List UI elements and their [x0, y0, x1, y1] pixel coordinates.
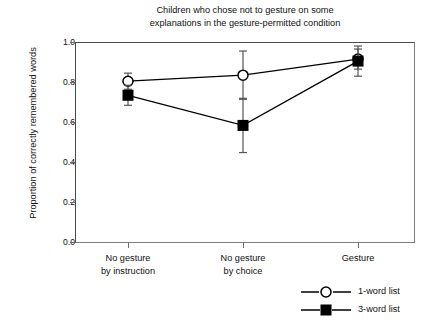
x-tick-mark — [243, 243, 244, 248]
legend-marker-open-circle-icon — [300, 283, 352, 301]
x-tick-label-0-line-2: by instruction — [68, 265, 188, 278]
plot-area — [75, 42, 415, 243]
legend-label: 3-word list — [358, 304, 400, 314]
x-axis-ticks: No gesture by instruction No gesture by … — [75, 243, 415, 287]
x-tick-label-0-line-1: No gesture — [68, 252, 188, 265]
x-tick-label-1-line-2: by choice — [183, 265, 303, 278]
chart-title-line-2: explanations in the gesture-permitted co… — [70, 17, 420, 30]
chart-title: Children who chose not to gesture on som… — [70, 4, 420, 30]
x-tick-label-1: No gesture by choice — [183, 252, 303, 277]
x-tick-mark — [358, 243, 359, 248]
y-axis-label: Proportion of correctly remembered words — [28, 28, 38, 238]
x-tick-label-1-line-1: No gesture — [183, 252, 303, 265]
legend-item-1-word-list: 1-word list — [300, 283, 435, 301]
plot-series-svg — [75, 42, 415, 243]
data-point-filled-square — [353, 56, 364, 67]
data-point-filled-square — [238, 120, 249, 131]
legend-label: 1-word list — [358, 286, 400, 296]
data-point-open-circle — [238, 70, 248, 80]
x-tick-label-0: No gesture by instruction — [68, 252, 188, 277]
x-tick-label-2-line-1: Gesture — [298, 252, 418, 265]
chart-figure: Children who chose not to gesture on som… — [0, 0, 439, 327]
series-1 — [123, 49, 363, 99]
y-axis-ticks: 1.0 0.8 0.6 0.4 0.2 0.0 — [42, 42, 75, 243]
legend-item-3-word-list: 3-word list — [300, 301, 435, 319]
x-tick-label-2: Gesture — [298, 252, 418, 265]
chart-title-line-1: Children who chose not to gesture on som… — [70, 4, 420, 17]
data-point-filled-square — [123, 90, 134, 101]
legend-marker-filled-square-icon — [300, 301, 352, 319]
x-tick-mark — [128, 243, 129, 248]
chart-legend: 1-word list 3-word list — [300, 283, 435, 319]
